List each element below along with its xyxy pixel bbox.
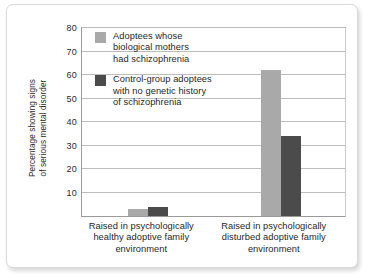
legend-label-line: with no genetic history xyxy=(113,86,212,97)
x-category-label-line: environment xyxy=(202,244,347,255)
chart-figure: Percentage showing signs of serious ment… xyxy=(0,0,369,278)
legend-swatch-icon-0 xyxy=(95,32,106,43)
gridline-80 xyxy=(82,27,345,28)
bar-group-0-series-1 xyxy=(148,207,168,216)
y-tick-label-60: 60 xyxy=(49,70,77,80)
gridline-40 xyxy=(82,121,345,122)
legend-label-line: of schizophrenia xyxy=(113,97,212,108)
legend-swatch-icon-1 xyxy=(95,75,106,86)
y-tick-label-50: 50 xyxy=(49,94,77,104)
bar-group-1-series-1 xyxy=(281,136,301,216)
legend-label-line: Adoptees whose xyxy=(113,31,189,42)
chart-legend: Adoptees whosebiological mothershad schi… xyxy=(95,31,245,117)
bar-group-0-series-0 xyxy=(128,209,148,216)
y-tick-label-10: 10 xyxy=(49,188,77,198)
x-category-label-line: healthy adoptive family xyxy=(69,232,214,243)
legend-label-0: Adoptees whosebiological mothershad schi… xyxy=(113,31,189,65)
x-category-label-1: Raised in psychologicallydisturbed adopt… xyxy=(202,221,347,255)
gridline-10 xyxy=(82,192,345,193)
gridline-30 xyxy=(82,145,345,146)
x-category-label-line: Raised in psychologically xyxy=(69,221,214,232)
gridline-20 xyxy=(82,168,345,169)
x-category-label-line: disturbed adoptive family xyxy=(202,232,347,243)
legend-item-1[interactable]: Control-group adopteeswith no genetic hi… xyxy=(95,74,245,108)
y-axis-title-line-1: Percentage showing signs xyxy=(28,79,37,177)
x-category-label-line: Raised in psychologically xyxy=(202,221,347,232)
x-category-label-line: environment xyxy=(69,244,214,255)
legend-item-0[interactable]: Adoptees whosebiological mothershad schi… xyxy=(95,31,245,65)
legend-label-line: biological mothers xyxy=(113,42,189,53)
y-tick-label-70: 70 xyxy=(49,47,77,57)
x-category-label-0: Raised in psychologicallyhealthy adoptiv… xyxy=(69,221,214,255)
y-tick-label-40: 40 xyxy=(49,117,77,127)
chart-card: Percentage showing signs of serious ment… xyxy=(6,4,358,268)
y-axis-tick-labels: 1020304050607080 xyxy=(49,21,77,221)
bar-group-1-series-0 xyxy=(261,70,281,216)
y-tick-label-30: 30 xyxy=(49,141,77,151)
y-tick-label-20: 20 xyxy=(49,164,77,174)
y-axis-title-line-2: of serious mental disorder xyxy=(38,79,49,177)
legend-label-line: Control-group adoptees xyxy=(113,74,212,85)
legend-label-1: Control-group adopteeswith no genetic hi… xyxy=(113,74,212,108)
legend-label-line: had schizophrenia xyxy=(113,54,189,65)
y-tick-label-80: 80 xyxy=(49,23,77,33)
